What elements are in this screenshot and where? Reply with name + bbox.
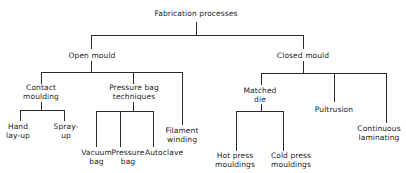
node-label: moulding xyxy=(18,92,64,101)
connector xyxy=(41,102,42,110)
node-label: Autoclave xyxy=(145,148,183,157)
node-label: laminating xyxy=(357,133,401,142)
node-autoclave: Autoclave xyxy=(145,148,183,157)
node-pultrusion: Pultrusion xyxy=(312,105,356,114)
connector xyxy=(334,73,335,102)
node-label: Pultrusion xyxy=(312,105,356,114)
node-label: techniques xyxy=(106,92,162,101)
connector xyxy=(236,111,284,112)
connector xyxy=(261,73,387,74)
node-label: Matched xyxy=(242,86,278,95)
connector xyxy=(120,111,121,147)
node-label: winding xyxy=(163,135,201,144)
node-label: Pressure xyxy=(111,148,145,157)
node-continuous-laminating: Continuous laminating xyxy=(357,124,401,142)
node-filament-winding: Filament winding xyxy=(163,126,201,144)
node-label: Continuous xyxy=(357,124,401,133)
connector xyxy=(303,35,304,49)
node-label: mouldings xyxy=(268,160,314,169)
node-label: bag xyxy=(111,157,145,166)
connector xyxy=(96,111,154,112)
node-label: lay-up xyxy=(2,131,34,140)
node-label: Cold press xyxy=(268,151,314,160)
connector xyxy=(303,61,304,73)
node-open-mould: Open mould xyxy=(66,51,118,60)
connector xyxy=(41,72,183,73)
connector xyxy=(236,111,237,151)
node-fabrication-processes: Fabrication processes xyxy=(150,9,242,18)
node-label: bag xyxy=(80,157,113,166)
connector xyxy=(91,35,92,49)
node-hot-press-mouldings: Hot press mouldings xyxy=(213,151,257,169)
fabrication-process-tree: Fabrication processes Open mould Contact… xyxy=(0,0,406,173)
node-label: up xyxy=(50,131,82,140)
node-label: Hand xyxy=(2,122,34,131)
connector xyxy=(261,104,262,111)
connector xyxy=(196,22,197,35)
connector xyxy=(20,110,21,121)
connector xyxy=(91,35,304,36)
connector xyxy=(386,73,387,123)
connector xyxy=(261,73,262,85)
node-label: Open mould xyxy=(66,51,118,60)
node-label: Hot press xyxy=(213,151,257,160)
node-label: Pressure bag xyxy=(106,83,162,92)
node-vacuum-bag: Vacuum bag xyxy=(80,148,113,166)
connector xyxy=(283,111,284,151)
node-label: Filament xyxy=(163,126,201,135)
node-hand-lay-up: Hand lay-up xyxy=(2,122,34,140)
node-label: die xyxy=(242,95,278,104)
connector xyxy=(91,61,92,72)
node-label: Contact xyxy=(18,83,64,92)
node-matched-die: Matched die xyxy=(242,86,278,104)
connector xyxy=(64,110,65,121)
node-label: Closed mould xyxy=(274,51,332,60)
node-spray-up: Spray- up xyxy=(50,122,82,140)
connector xyxy=(153,111,154,147)
connector xyxy=(20,110,65,111)
node-pressure-bag: Pressure bag xyxy=(111,148,145,166)
node-label: mouldings xyxy=(213,160,257,169)
node-closed-mould: Closed mould xyxy=(274,51,332,60)
node-pressure-bag-techniques: Pressure bag techniques xyxy=(106,83,162,101)
connector xyxy=(96,111,97,147)
connector xyxy=(133,102,134,111)
node-label: Spray- xyxy=(50,122,82,131)
connector xyxy=(182,72,183,125)
node-contact-moulding: Contact moulding xyxy=(18,83,64,101)
node-cold-press-mouldings: Cold press mouldings xyxy=(268,151,314,169)
node-label: Vacuum xyxy=(80,148,113,157)
node-label: Fabrication processes xyxy=(150,9,242,18)
